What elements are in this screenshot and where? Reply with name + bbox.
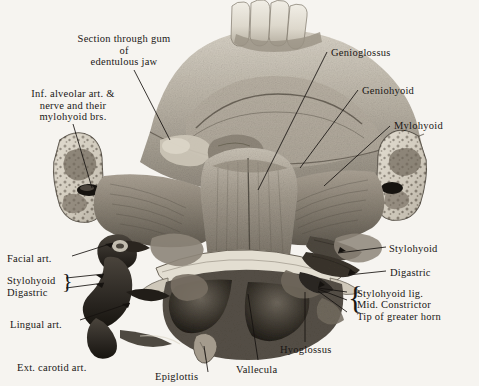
label-inf-alveolar-art: Inf. alveolar art. & nerve and their myl… <box>12 88 134 123</box>
label-digastric-right: Digastric <box>390 267 431 279</box>
label-ext-carotid-art: Ext. carotid art. <box>17 362 87 374</box>
label-stylohyoid-left: Stylohyoid <box>7 275 56 287</box>
label-mid-constrictor: Mid. Constrictor <box>357 299 431 311</box>
label-lingual-art: Lingual art. <box>10 319 62 331</box>
anatomical-plate: Section through gum of edentulous jaw In… <box>0 0 479 386</box>
label-epiglottis: Epiglottis <box>155 371 198 383</box>
brace-left-stylohyoid-digastric: } <box>62 270 73 292</box>
label-section-through-gum: Section through gum of edentulous jaw <box>66 33 182 68</box>
label-facial-art: Facial art. <box>7 253 52 265</box>
label-stylohyoid-right: Stylohyoid <box>389 243 438 255</box>
label-hyoglossus: Hyoglossus <box>280 344 332 356</box>
label-stylohyoid-lig: Stylohyoid lig. <box>357 288 423 300</box>
label-genioglossus: Genioglossus <box>331 47 391 59</box>
label-vallecula: Vallecula <box>236 364 277 376</box>
label-tip-greater-horn: Tip of greater horn <box>357 311 441 323</box>
label-geniohyoid: Geniohyoid <box>362 85 414 97</box>
label-mylohyoid: Mylohyoid <box>394 120 443 132</box>
label-digastric-left: Digastric <box>7 287 48 299</box>
